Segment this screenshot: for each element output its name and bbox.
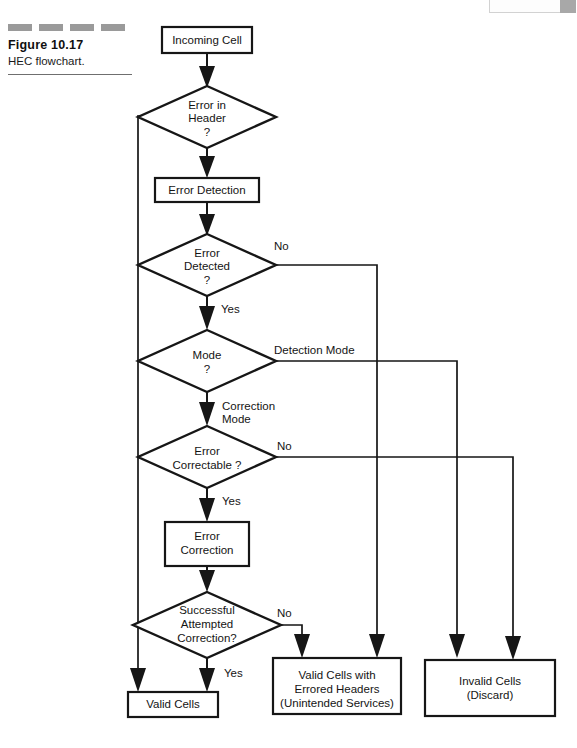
node-valid-cells-errored-line3: (Unintended Services): [280, 697, 394, 709]
edge-detected-yes: [199, 296, 215, 330]
node-error-detection-label: Error Detection: [168, 184, 245, 196]
node-error-detected-line1: Error: [194, 247, 220, 259]
edge-label-detected-no: No: [274, 240, 289, 252]
edge-label-correctable-yes: Yes: [222, 495, 241, 507]
edge-correctable-no: [276, 457, 521, 660]
edge-successful-no: [281, 625, 310, 658]
node-successful-line3: Correction?: [177, 632, 236, 644]
node-invalid-cells[interactable]: Invalid Cells (Discard): [425, 660, 555, 716]
node-error-correctable-line2: Correctable ?: [172, 459, 241, 471]
edge-label-mode-correction-line2: Mode: [222, 413, 251, 425]
node-error-correction-line1: Error: [194, 530, 220, 542]
node-successful-line1: Successful: [179, 604, 235, 616]
node-invalid-cells-line2: (Discard): [467, 689, 514, 701]
edge-detected-no: [276, 265, 385, 658]
node-mode-line1: Mode: [193, 349, 222, 361]
node-error-correction[interactable]: Error Correction: [165, 522, 249, 566]
node-error-detected[interactable]: Error Detected ?: [138, 234, 276, 296]
edge-detection-to-detected: [199, 202, 215, 236]
edge-correctable-yes: [199, 488, 215, 522]
node-valid-cells-errored-line1: Valid Cells with: [298, 669, 375, 681]
edge-correction-to-successful: [199, 566, 215, 592]
edge-label-detected-yes: Yes: [221, 303, 240, 315]
node-error-correctable[interactable]: Error Correctable ?: [138, 426, 276, 488]
node-error-correction-line2: Correction: [180, 544, 233, 556]
node-invalid-cells-line1: Invalid Cells: [459, 675, 521, 687]
node-valid-cells[interactable]: Valid Cells: [128, 692, 218, 717]
node-error-in-header[interactable]: Error in Header ?: [138, 86, 276, 148]
node-error-detected-line3: ?: [204, 274, 210, 286]
edge-mode-correction: [199, 392, 215, 426]
node-error-correctable-line1: Error: [194, 445, 220, 457]
node-mode[interactable]: Mode ?: [138, 330, 276, 392]
node-incoming-cell-label: Incoming Cell: [172, 34, 242, 46]
node-incoming-cell[interactable]: Incoming Cell: [162, 27, 252, 53]
node-error-detection[interactable]: Error Detection: [155, 178, 259, 202]
edge-incoming-to-header: [199, 53, 215, 88]
edge-successful-yes: [199, 658, 215, 692]
node-successful-attempted-correction[interactable]: Successful Attempted Correction?: [133, 592, 281, 658]
node-error-in-header-line2: Header: [188, 112, 226, 124]
edge-label-mode-detection: Detection Mode: [274, 344, 355, 356]
node-error-in-header-line3: ?: [204, 126, 210, 138]
edge-label-successful-no: No: [277, 607, 292, 619]
node-successful-line2: Attempted: [181, 618, 233, 630]
node-error-detected-line2: Detected: [184, 260, 230, 272]
edge-mode-detection: [276, 361, 465, 658]
edge-label-mode-correction-line1: Correction: [222, 400, 275, 412]
edge-label-successful-yes: Yes: [224, 667, 243, 679]
node-error-in-header-line1: Error in: [188, 99, 226, 111]
edge-header-to-detection: [199, 148, 215, 178]
node-valid-cells-label: Valid Cells: [146, 698, 200, 710]
node-mode-line2: ?: [204, 363, 210, 375]
node-valid-cells-errored-headers[interactable]: Valid Cells with Errored Headers (Uninte…: [273, 658, 401, 714]
hec-flowchart: No Yes Detection Mode Correction Mode No…: [0, 0, 577, 748]
node-valid-cells-errored-line2: Errored Headers: [294, 683, 379, 695]
edge-label-correctable-no: No: [277, 440, 292, 452]
